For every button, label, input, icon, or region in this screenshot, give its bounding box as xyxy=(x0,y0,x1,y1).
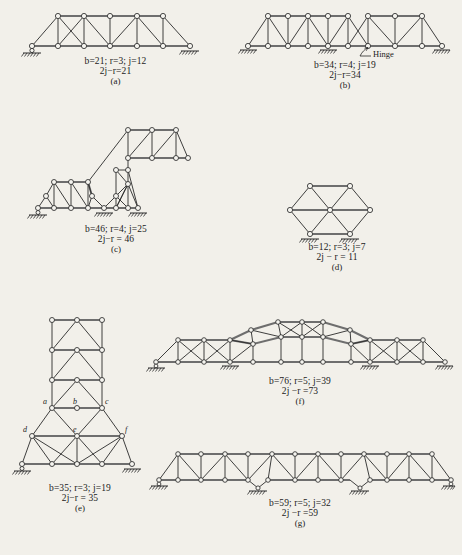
caption-f-label: (f) xyxy=(205,396,395,406)
joint-label-b: b xyxy=(73,397,77,406)
truss-figure-e: a b c d e f xyxy=(14,308,144,483)
support-roller-right xyxy=(180,51,200,55)
caption-g: b=59; r=5; j=32 2j −r =59 (g) xyxy=(205,498,395,528)
truss-b-svg xyxy=(240,4,450,56)
caption-e-label: (e) xyxy=(10,503,150,513)
joint-label-f: f xyxy=(125,425,129,434)
caption-c-line2: 2j−r = 46 xyxy=(16,234,216,244)
truss-figure-a xyxy=(18,4,213,56)
caption-b-line1: b=34; r=4; j=19 xyxy=(240,60,450,70)
support-c-right xyxy=(129,213,148,217)
caption-e-line2: 2j−r = 35 xyxy=(10,493,150,503)
caption-d-line1: b=12; r=3; j=7 xyxy=(272,242,402,252)
joint-label-d: d xyxy=(23,425,28,434)
truss-a-svg xyxy=(18,4,213,56)
support-f-2 xyxy=(221,366,240,370)
caption-d: b=12; r=3; j=7 2j − r = 11 (d) xyxy=(272,242,402,272)
support-roller-left-b xyxy=(239,50,258,54)
support-f-4 xyxy=(436,366,454,370)
support-f-3 xyxy=(361,366,380,370)
truss-c-svg xyxy=(16,118,216,223)
caption-a-line2: 2j−r=21 xyxy=(18,66,213,76)
joint-label-a: a xyxy=(43,397,47,406)
caption-g-label: (g) xyxy=(205,518,395,528)
support-f-1 xyxy=(147,364,166,371)
truss-figure-g xyxy=(155,440,455,502)
joint-label-e: e xyxy=(73,425,77,434)
caption-a-line1: b=21; r=3; j=12 xyxy=(18,56,213,66)
caption-c-label: (c) xyxy=(16,244,216,254)
support-pin-mid-b xyxy=(319,50,338,54)
caption-b: b=34; r=4; j=19 2j−r=34 (b) xyxy=(240,60,450,90)
joint-label-c: c xyxy=(105,397,109,406)
caption-g-line2: 2j −r =59 xyxy=(205,508,395,518)
support-g-1 xyxy=(150,482,169,489)
caption-e: b=35; r=3; j=19 2j−r = 35 (e) xyxy=(10,483,150,513)
support-g-3 xyxy=(350,486,370,495)
support-roller-right-b xyxy=(433,50,451,54)
caption-b-label: (b) xyxy=(240,80,450,90)
caption-c-line1: b=46; r=4; j=25 xyxy=(16,224,216,234)
support-c-left xyxy=(28,211,48,219)
caption-f-line1: b=76; r=5; j=39 xyxy=(205,376,395,386)
caption-b-line2: 2j−r=34 xyxy=(240,70,450,80)
truss-f-svg xyxy=(148,314,453,376)
truss-e-svg: a b c d e f xyxy=(14,308,144,483)
support-g-4 xyxy=(442,482,456,489)
caption-a-label: (a) xyxy=(18,76,213,86)
caption-f: b=76; r=5; j=39 2j −r =73 (f) xyxy=(205,376,395,406)
caption-f-line2: 2j −r =73 xyxy=(205,386,395,396)
support-e-left xyxy=(13,467,32,475)
caption-c: b=46; r=4; j=25 2j−r = 46 (c) xyxy=(16,224,216,254)
support-e-right xyxy=(123,469,142,473)
truss-figure-c xyxy=(16,118,216,223)
hinge-label-b: Hinge xyxy=(373,49,394,59)
support-g-2 xyxy=(248,486,268,495)
truss-figure-b xyxy=(240,4,450,56)
caption-g-line1: b=59; r=5; j=32 xyxy=(205,498,395,508)
truss-figure-f xyxy=(148,314,453,376)
caption-d-label: (d) xyxy=(272,262,402,272)
caption-d-line2: 2j − r = 11 xyxy=(272,252,402,262)
truss-g-svg xyxy=(155,440,455,502)
caption-e-line1: b=35; r=3; j=19 xyxy=(10,483,150,493)
support-c-mid xyxy=(95,213,114,217)
caption-a: b=21; r=3; j=12 2j−r=21 (a) xyxy=(18,56,213,86)
